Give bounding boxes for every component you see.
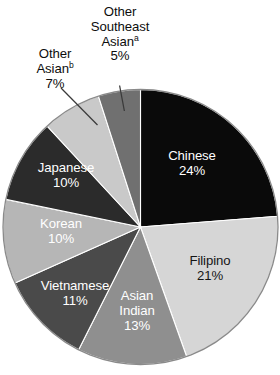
slice-label-name: Korean (24, 216, 98, 231)
slice-label-name: Filipino (172, 253, 248, 268)
slice-label-value: 10% (24, 231, 98, 246)
pie-label-filipino: Filipino 21% (172, 253, 248, 283)
callout-line-1: Other (72, 5, 168, 20)
slice-label-value: 21% (172, 268, 248, 283)
callout-line-2: Asianb (16, 62, 94, 77)
callout-line-1: Other (16, 47, 94, 62)
pie-label-chinese: Chinese 24% (152, 148, 232, 178)
slice-label-name: Chinese (152, 148, 232, 163)
slice-label-name: Japanese (24, 160, 108, 175)
pie-label-japanese: Japanese 10% (24, 160, 108, 190)
slice-label-value: 10% (24, 175, 108, 190)
slice-label-value: 13% (104, 318, 170, 333)
callout-value: 7% (16, 77, 94, 92)
pie-label-vietnamese: Vietnamese 11% (30, 278, 120, 308)
slice-label-value: 11% (30, 293, 120, 308)
pie-label-korean: Korean 10% (24, 216, 98, 246)
footnote-marker-b: b (69, 59, 74, 69)
callout-line-2-text: Asian (36, 61, 69, 76)
footnote-marker-a: a (134, 32, 139, 42)
callout-line-3-text: Asian (101, 34, 134, 49)
pie-callout-other-asian: Other Asianb 7% (16, 47, 94, 91)
pie-chart-figure: Other Southeast Asiana 5% Other Asianb 7… (0, 0, 280, 375)
callout-line-2: Southeast (72, 20, 168, 35)
slice-label-name: Vietnamese (30, 278, 120, 293)
slice-label-value: 24% (152, 163, 232, 178)
